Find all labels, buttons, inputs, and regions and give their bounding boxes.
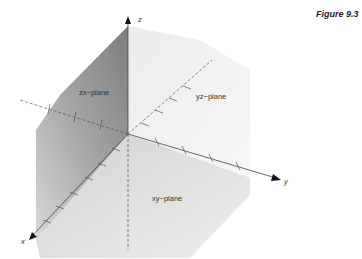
x-axis-label: x [20, 237, 25, 246]
z-axis-arrow-icon [125, 16, 131, 24]
x-axis-arrow-icon [29, 232, 37, 240]
yz-plane-label: yz−plane [196, 92, 226, 101]
y-axis-label: y [283, 177, 289, 186]
coordinate-planes-diagram: z y x zx−plane yz−plane xy−plane [0, 0, 362, 259]
zx-plane-label: zx−plane [79, 88, 109, 97]
xy-plane-label: xy−plane [152, 194, 182, 203]
z-axis-label: z [137, 15, 142, 24]
y-axis-arrow-icon [271, 174, 281, 181]
